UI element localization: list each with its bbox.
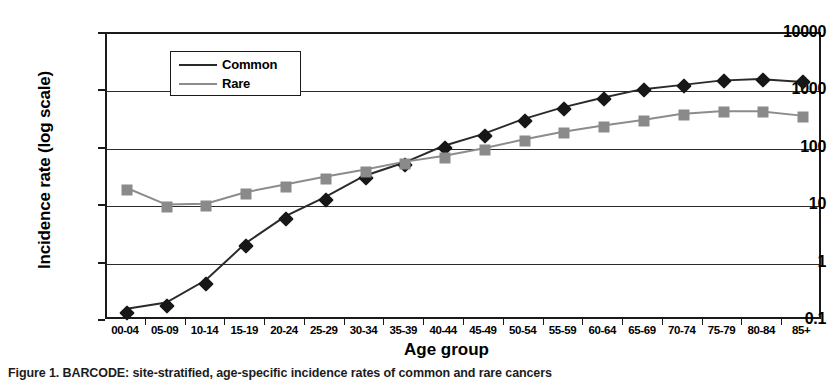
x-tick-mark <box>543 319 544 325</box>
data-point-rare-05-09 <box>161 201 172 212</box>
x-tick-label: 10-14 <box>191 324 218 336</box>
x-tick-label: 60-64 <box>589 324 616 336</box>
x-tick-mark <box>702 319 703 325</box>
y-axis-title: Incidence rate (log scale) <box>35 20 55 320</box>
y-tick-mark <box>98 262 105 264</box>
data-point-rare-00-04 <box>121 185 132 196</box>
x-tick-mark <box>224 319 225 325</box>
x-tick-label: 45-49 <box>469 324 496 336</box>
x-tick-mark <box>662 319 663 325</box>
x-tick-mark <box>582 319 583 325</box>
y-tick-mark <box>98 89 105 91</box>
series-line-rare <box>127 111 799 204</box>
x-tick-label: 85+ <box>792 324 810 336</box>
y-tick-mark <box>98 147 105 149</box>
data-point-rare-55-59 <box>559 128 570 139</box>
x-axis-title: Age group <box>0 340 833 360</box>
legend-line-rare <box>179 83 217 85</box>
x-tick-mark <box>423 319 424 325</box>
data-point-rare-10-14 <box>201 201 212 212</box>
data-point-rare-35-39 <box>400 158 411 169</box>
data-point-rare-40-44 <box>440 152 451 163</box>
figure-caption: Figure 1. BARCODE: site-stratified, age-… <box>8 366 828 382</box>
legend-swatch-common <box>179 59 217 71</box>
data-point-rare-70-74 <box>678 110 689 121</box>
data-point-rare-80-84 <box>758 107 769 118</box>
x-tick-mark <box>264 319 265 325</box>
x-tick-mark <box>781 319 782 325</box>
x-tick-label: 25-29 <box>310 324 337 336</box>
figure-incidence-rate-by-age: Incidence rate (log scale) 1000010001001… <box>0 0 833 382</box>
x-tick-mark <box>503 319 504 325</box>
data-point-rare-75-79 <box>718 107 729 118</box>
x-tick-mark <box>344 319 345 325</box>
data-point-rare-45-49 <box>479 145 490 156</box>
x-tick-label: 15-19 <box>231 324 258 336</box>
x-tick-label: 70-74 <box>668 324 695 336</box>
x-tick-label: 65-69 <box>628 324 655 336</box>
y-tick-mark <box>98 319 105 321</box>
legend-swatch-rare <box>179 78 217 90</box>
x-tick-mark <box>304 319 305 325</box>
x-tick-label: 00-04 <box>111 324 138 336</box>
x-tick-mark <box>185 319 186 325</box>
data-point-rare-25-29 <box>320 173 331 184</box>
x-tick-mark <box>622 319 623 325</box>
x-tick-label: 55-59 <box>549 324 576 336</box>
legend-item-common: Common <box>179 55 300 74</box>
legend-label-rare: Rare <box>222 76 250 91</box>
legend-line-common <box>179 64 217 66</box>
x-tick-label: 50-54 <box>509 324 536 336</box>
legend-item-rare: Rare <box>179 74 300 93</box>
data-point-rare-20-24 <box>281 181 292 192</box>
y-tick-mark <box>98 32 105 34</box>
data-point-rare-15-19 <box>241 189 252 200</box>
x-tick-label: 80-84 <box>748 324 775 336</box>
x-tick-label: 20-24 <box>270 324 297 336</box>
x-tick-label: 75-79 <box>708 324 735 336</box>
data-point-rare-85+ <box>798 111 809 122</box>
data-point-rare-30-34 <box>360 166 371 177</box>
x-tick-label: 05-09 <box>151 324 178 336</box>
x-tick-mark <box>741 319 742 325</box>
y-tick-mark <box>98 204 105 206</box>
x-tick-label: 30-34 <box>350 324 377 336</box>
x-tick-label: 40-44 <box>429 324 456 336</box>
x-tick-label: 35-39 <box>390 324 417 336</box>
data-point-rare-65-69 <box>639 116 650 127</box>
x-tick-mark <box>145 319 146 325</box>
chart-legend: Common Rare <box>170 51 301 96</box>
data-point-rare-60-64 <box>599 121 610 132</box>
x-tick-mark <box>463 319 464 325</box>
data-point-rare-50-54 <box>519 136 530 147</box>
x-tick-mark <box>383 319 384 325</box>
legend-label-common: Common <box>222 57 277 72</box>
